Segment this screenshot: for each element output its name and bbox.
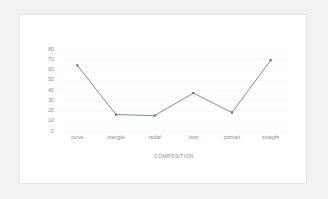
y-axis-tick-labels: 80706050403020100 xyxy=(34,15,54,185)
y-axis-tick-label: 20 xyxy=(34,108,54,113)
x-axis-tick-label: loop xyxy=(174,135,213,147)
series-line xyxy=(77,60,270,115)
y-axis-tick-label: 0 xyxy=(34,129,54,134)
y-axis-tick-label: 10 xyxy=(34,118,54,123)
data-point-marker xyxy=(76,64,78,66)
y-axis-tick-label: 60 xyxy=(34,67,54,72)
y-axis-tick-label: 50 xyxy=(34,77,54,82)
x-axis-tick-label: portrait xyxy=(213,135,252,147)
plot-area xyxy=(58,49,290,131)
data-point-marker xyxy=(154,115,156,117)
y-axis-tick-label: 70 xyxy=(34,57,54,62)
x-axis-tick-label: curve xyxy=(58,135,97,147)
x-axis-tick-labels: curvetriangleradialloopportraitstraight xyxy=(58,135,290,147)
gridline xyxy=(58,131,290,132)
data-point-marker xyxy=(231,111,233,113)
data-point-marker xyxy=(192,92,194,94)
x-axis-tick-label: radial xyxy=(135,135,174,147)
x-axis-tick-label: straight xyxy=(251,135,290,147)
y-axis-tick-label: 80 xyxy=(34,47,54,52)
chart-panel: 80706050403020100 curvetriangleradialloo… xyxy=(19,14,307,184)
data-point-marker xyxy=(270,59,272,61)
x-axis-tick-label: triangle xyxy=(97,135,136,147)
y-axis-tick-label: 40 xyxy=(34,88,54,93)
line-series xyxy=(58,49,290,131)
chart-plot-wrapper: 80706050403020100 curvetriangleradialloo… xyxy=(20,15,308,185)
y-axis-tick-label: 30 xyxy=(34,98,54,103)
data-point-marker xyxy=(115,114,117,116)
x-axis-title: COMPOSITION xyxy=(58,153,290,159)
